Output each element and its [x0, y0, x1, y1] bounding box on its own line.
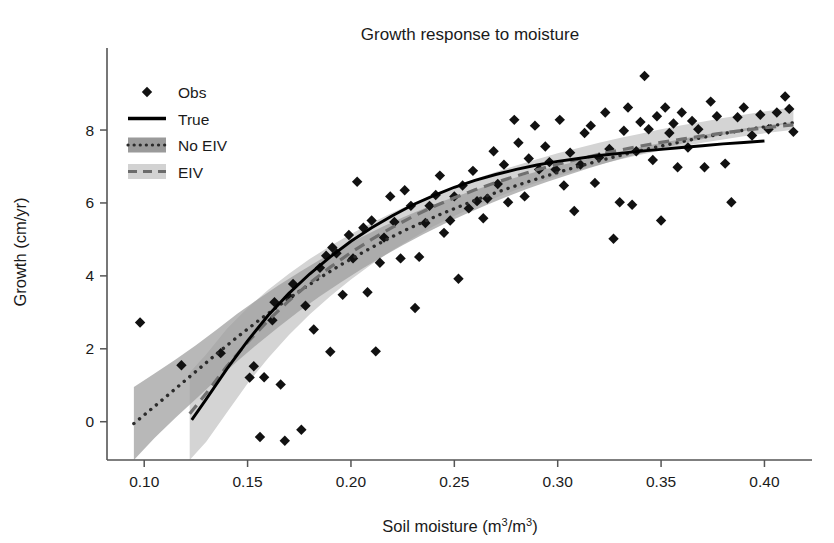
plot-background: [0, 0, 834, 543]
x-tick-label: 0.20: [336, 473, 367, 490]
legend-item-no-eiv: No EIV: [128, 137, 228, 154]
legend-label: EIV: [178, 164, 204, 181]
x-tick-label: 0.15: [233, 473, 263, 490]
x-tick-label: 0.40: [749, 473, 780, 490]
y-tick-label: 4: [85, 267, 94, 284]
chart-title: Growth response to moisture: [361, 25, 579, 44]
y-tick-label: 8: [85, 122, 94, 139]
y-tick-label: 2: [85, 340, 94, 357]
legend-item-eiv: EIV: [128, 164, 204, 181]
x-tick-label: 0.35: [646, 473, 676, 490]
x-axis-label: Soil moisture (m3/m3): [382, 516, 537, 535]
y-tick-label: 6: [85, 194, 94, 211]
chart-figure: Growth response to moisture 0.100.150.20…: [0, 0, 834, 543]
legend-label: True: [178, 111, 209, 128]
legend-label: Obs: [178, 84, 207, 101]
legend-label: No EIV: [178, 137, 228, 154]
y-tick-label: 0: [85, 413, 94, 430]
x-tick-label: 0.25: [439, 473, 469, 490]
x-tick-label: 0.30: [543, 473, 574, 490]
y-axis-label: Growth (cm/yr): [11, 197, 29, 306]
x-tick-label: 0.10: [129, 473, 160, 490]
scatter-plot: Growth response to moisture 0.100.150.20…: [0, 0, 834, 543]
